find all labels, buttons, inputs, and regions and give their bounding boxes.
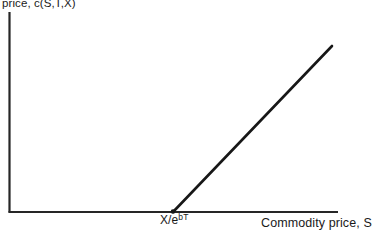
x-axis-label: Commodity price, S (261, 216, 372, 231)
chart-canvas (0, 0, 376, 234)
xtick-base: X/e (160, 213, 178, 227)
xtick-exponent: bT (178, 212, 188, 222)
option-payoff-chart: price, c(S,T,X) X/ebT Commodity price, S (0, 0, 376, 234)
payoff-series-line (173, 46, 332, 212)
y-axis-label: price, c(S,T,X) (2, 0, 76, 9)
x-axis-tick-label-strike: X/ebT (160, 213, 188, 228)
